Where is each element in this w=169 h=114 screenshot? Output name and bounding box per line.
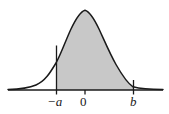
axis-label-neg-a: −a	[47, 95, 62, 108]
axis-label-zero: 0	[80, 95, 87, 108]
axis-label-b: b	[130, 95, 137, 108]
normal-curve-figure: −a 0 b	[0, 0, 169, 114]
shaded-area-under-curve	[8, 10, 163, 90]
